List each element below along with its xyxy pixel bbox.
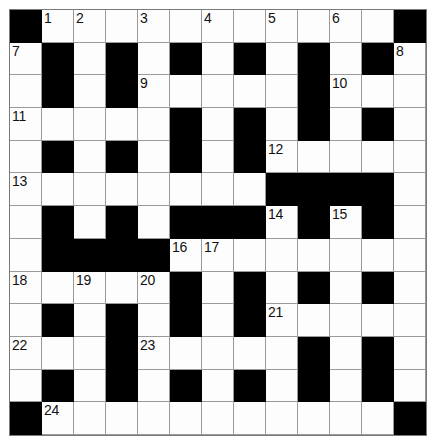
answer-cell[interactable]: [394, 108, 426, 141]
answer-cell[interactable]: [138, 304, 170, 337]
answer-cell[interactable]: 21: [266, 304, 298, 337]
answer-cell[interactable]: [74, 206, 106, 239]
answer-cell[interactable]: [394, 239, 426, 272]
answer-cell[interactable]: [138, 43, 170, 76]
answer-cell[interactable]: [298, 239, 330, 272]
answer-cell[interactable]: [394, 337, 426, 370]
answer-cell[interactable]: 5: [266, 10, 298, 43]
answer-cell[interactable]: [170, 75, 202, 108]
answer-cell[interactable]: [106, 272, 138, 305]
answer-cell[interactable]: [138, 370, 170, 403]
answer-cell[interactable]: [202, 402, 234, 435]
answer-cell[interactable]: [106, 173, 138, 206]
answer-cell[interactable]: [266, 402, 298, 435]
answer-cell[interactable]: [138, 108, 170, 141]
answer-cell[interactable]: [330, 337, 362, 370]
answer-cell[interactable]: 7: [10, 43, 42, 76]
answer-cell[interactable]: [266, 337, 298, 370]
answer-cell[interactable]: [202, 141, 234, 174]
answer-cell[interactable]: [202, 272, 234, 305]
answer-cell[interactable]: [202, 370, 234, 403]
answer-cell[interactable]: 2: [74, 10, 106, 43]
answer-cell[interactable]: 4: [202, 10, 234, 43]
answer-cell[interactable]: [330, 239, 362, 272]
answer-cell[interactable]: 20: [138, 272, 170, 305]
answer-cell[interactable]: [138, 173, 170, 206]
answer-cell[interactable]: [10, 75, 42, 108]
answer-cell[interactable]: [266, 43, 298, 76]
answer-cell[interactable]: [10, 141, 42, 174]
answer-cell[interactable]: [234, 239, 266, 272]
answer-cell[interactable]: 23: [138, 337, 170, 370]
answer-cell[interactable]: 15: [330, 206, 362, 239]
answer-cell[interactable]: [74, 402, 106, 435]
answer-cell[interactable]: [234, 10, 266, 43]
answer-cell[interactable]: [234, 173, 266, 206]
answer-cell[interactable]: 18: [10, 272, 42, 305]
answer-cell[interactable]: [202, 337, 234, 370]
answer-cell[interactable]: [266, 108, 298, 141]
answer-cell[interactable]: [394, 206, 426, 239]
answer-cell[interactable]: [74, 75, 106, 108]
answer-cell[interactable]: [394, 304, 426, 337]
answer-cell[interactable]: 17: [202, 239, 234, 272]
answer-cell[interactable]: [298, 141, 330, 174]
answer-cell[interactable]: [202, 75, 234, 108]
answer-cell[interactable]: [394, 141, 426, 174]
answer-cell[interactable]: [266, 370, 298, 403]
crossword-grid[interactable]: 123456789101112131415161718192021222324: [9, 9, 427, 436]
answer-cell[interactable]: [362, 304, 394, 337]
answer-cell[interactable]: [42, 108, 74, 141]
answer-cell[interactable]: [74, 141, 106, 174]
answer-cell[interactable]: [202, 173, 234, 206]
answer-cell[interactable]: [138, 402, 170, 435]
answer-cell[interactable]: [74, 337, 106, 370]
answer-cell[interactable]: [74, 108, 106, 141]
answer-cell[interactable]: 24: [42, 402, 74, 435]
answer-cell[interactable]: 22: [10, 337, 42, 370]
answer-cell[interactable]: [362, 75, 394, 108]
answer-cell[interactable]: [202, 43, 234, 76]
answer-cell[interactable]: 9: [138, 75, 170, 108]
answer-cell[interactable]: [74, 304, 106, 337]
answer-cell[interactable]: [266, 75, 298, 108]
answer-cell[interactable]: [298, 402, 330, 435]
answer-cell[interactable]: [362, 141, 394, 174]
answer-cell[interactable]: 1: [42, 10, 74, 43]
answer-cell[interactable]: [362, 10, 394, 43]
answer-cell[interactable]: [330, 108, 362, 141]
answer-cell[interactable]: 16: [170, 239, 202, 272]
answer-cell[interactable]: 3: [138, 10, 170, 43]
answer-cell[interactable]: [10, 206, 42, 239]
answer-cell[interactable]: [106, 402, 138, 435]
answer-cell[interactable]: [202, 304, 234, 337]
answer-cell[interactable]: 13: [10, 173, 42, 206]
answer-cell[interactable]: [74, 370, 106, 403]
answer-cell[interactable]: [330, 43, 362, 76]
answer-cell[interactable]: [394, 75, 426, 108]
answer-cell[interactable]: 8: [394, 43, 426, 76]
answer-cell[interactable]: [234, 402, 266, 435]
answer-cell[interactable]: [394, 173, 426, 206]
answer-cell[interactable]: 19: [74, 272, 106, 305]
answer-cell[interactable]: [330, 402, 362, 435]
answer-cell[interactable]: [170, 10, 202, 43]
answer-cell[interactable]: [330, 141, 362, 174]
answer-cell[interactable]: [170, 337, 202, 370]
answer-cell[interactable]: [234, 75, 266, 108]
answer-cell[interactable]: [10, 304, 42, 337]
answer-cell[interactable]: [106, 108, 138, 141]
answer-cell[interactable]: [330, 370, 362, 403]
answer-cell[interactable]: [266, 239, 298, 272]
answer-cell[interactable]: [138, 206, 170, 239]
answer-cell[interactable]: [170, 402, 202, 435]
answer-cell[interactable]: [202, 108, 234, 141]
answer-cell[interactable]: [362, 239, 394, 272]
answer-cell[interactable]: 11: [10, 108, 42, 141]
answer-cell[interactable]: [138, 141, 170, 174]
answer-cell[interactable]: [10, 370, 42, 403]
answer-cell[interactable]: [234, 337, 266, 370]
answer-cell[interactable]: [394, 370, 426, 403]
answer-cell[interactable]: [298, 10, 330, 43]
answer-cell[interactable]: [394, 272, 426, 305]
